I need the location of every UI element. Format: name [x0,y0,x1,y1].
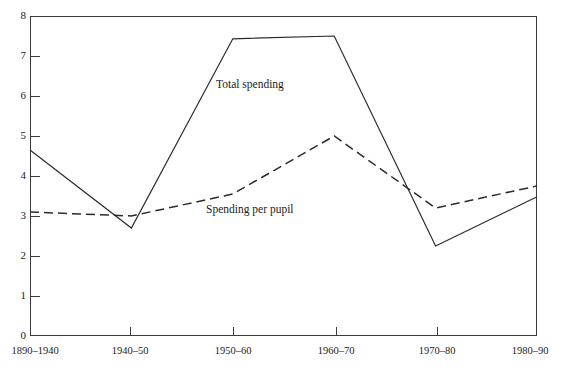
series-annotation-total-spending: Total spending [216,78,284,91]
x-tick-label-1890-1940: 1890–1940 [4,345,66,357]
x-tick-label-1960-70: 1960–70 [311,345,361,357]
x-tick-label-1970-80: 1970–80 [412,345,462,357]
series-lines [0,0,562,368]
series-annotation-spending-per-pupil: Spending per pupil [206,203,294,216]
x-tick-label-1980-90: 1980–90 [505,345,555,357]
x-tick-label-1940-50: 1940–50 [105,345,155,357]
x-tick-label-1950-60: 1950–60 [208,345,258,357]
line-chart: 8 7 6 5 4 3 2 1 0 Total spending Spendin… [0,0,562,368]
